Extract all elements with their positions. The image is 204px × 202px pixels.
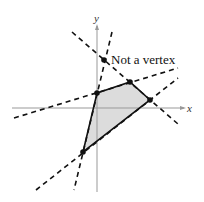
- vertex-bottom: [80, 149, 86, 155]
- feasible-region-diagram: x y Not a vertex: [0, 0, 204, 202]
- vertex-top-right: [127, 79, 133, 85]
- feasible-region: [83, 82, 150, 152]
- vertex-top-left: [94, 90, 100, 96]
- x-axis-label: x: [186, 102, 192, 114]
- x-axis-arrow-icon: [180, 106, 186, 110]
- non-vertex-point: [101, 57, 107, 63]
- not-a-vertex-label: Not a vertex: [111, 52, 176, 67]
- vertex-right: [147, 97, 153, 103]
- y-axis-arrow-icon: [95, 24, 99, 30]
- y-axis-label: y: [93, 12, 99, 24]
